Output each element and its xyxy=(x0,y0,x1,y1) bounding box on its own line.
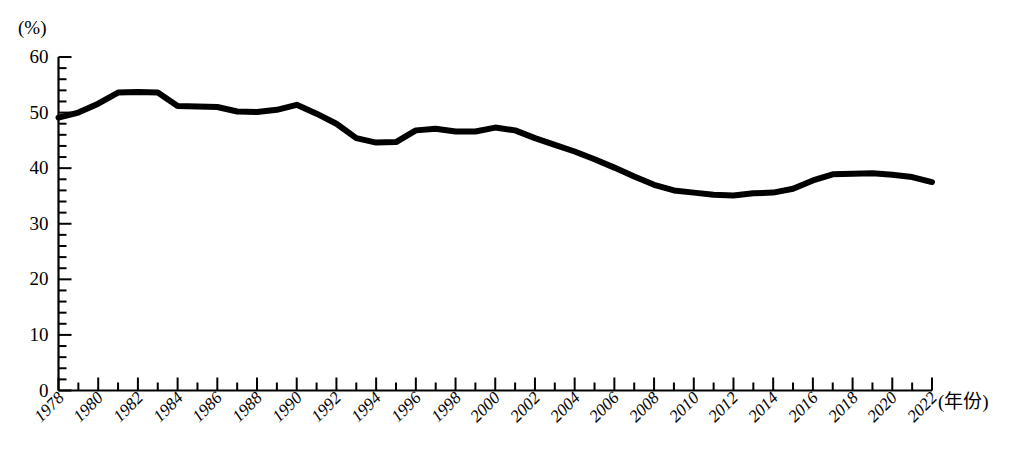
chart-series xyxy=(59,92,933,195)
line-chart: (%) (年份) 0102030405060 19781980198219841… xyxy=(0,0,1016,471)
data-line xyxy=(59,92,933,195)
chart-plot-area xyxy=(0,0,1016,471)
